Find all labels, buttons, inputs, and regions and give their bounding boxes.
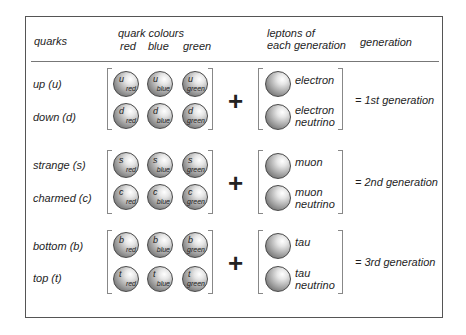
lepton-name: electron: [295, 104, 334, 116]
header-colour-green: green: [183, 40, 211, 52]
lepton-name: muon: [295, 186, 323, 198]
quark-ball-green: sgreen: [182, 152, 208, 178]
left-bracket: [107, 230, 112, 294]
quark-ball-green: dgreen: [182, 103, 208, 129]
quark-ball-blue: cblue: [147, 184, 173, 210]
plus-icon: +: [228, 250, 243, 276]
generation-result: = 2nd generation: [355, 176, 438, 188]
left-bracket: [258, 230, 263, 294]
lepton-ball: [265, 153, 291, 179]
quark-ball-blue: sblue: [147, 152, 173, 178]
quark-ball-red: cred: [113, 184, 139, 210]
lepton-name-line2: neutrino: [295, 116, 335, 128]
header-quark-colours: quark colours: [118, 27, 184, 39]
header-divider: [31, 61, 439, 62]
quark-ball-red: bred: [113, 232, 139, 258]
lepton-name-line2: neutrino: [295, 198, 335, 210]
quark-name: bottom (b): [33, 240, 83, 252]
quark-ball-blue: bblue: [147, 232, 173, 258]
lepton-ball: [265, 71, 291, 97]
quark-ball-red: tred: [113, 266, 139, 292]
generation-result: = 1st generation: [355, 94, 434, 106]
generation-result: = 3rd generation: [355, 256, 435, 268]
quark-ball-red: ured: [113, 71, 139, 97]
header-colour-blue: blue: [148, 40, 169, 52]
lepton-name: electron: [295, 74, 334, 86]
lepton-ball: [265, 233, 291, 259]
quark-ball-blue: ublue: [147, 71, 173, 97]
right-bracket: [208, 68, 213, 130]
quark-name: top (t): [33, 272, 62, 284]
quark-ball-red: sred: [113, 152, 139, 178]
right-bracket: [338, 68, 343, 130]
left-bracket: [258, 68, 263, 130]
header-generation: generation: [360, 36, 412, 48]
header-leptons-line1: leptons of: [267, 27, 315, 39]
quark-ball-red: dred: [113, 103, 139, 129]
lepton-name: tau: [295, 267, 310, 279]
quark-ball-green: tgreen: [182, 266, 208, 292]
lepton-name: tau: [295, 236, 310, 248]
left-bracket: [107, 68, 112, 130]
left-bracket: [258, 150, 263, 214]
lepton-name: muon: [295, 156, 323, 168]
lepton-ball: [265, 104, 291, 130]
quark-name: down (d): [33, 111, 76, 123]
quark-ball-green: cgreen: [182, 184, 208, 210]
quark-ball-green: ugreen: [182, 71, 208, 97]
left-bracket: [107, 150, 112, 214]
quark-name: up (u): [33, 78, 62, 90]
right-bracket: [338, 150, 343, 214]
right-bracket: [208, 230, 213, 294]
quark-name: strange (s): [33, 159, 86, 171]
right-bracket: [338, 230, 343, 294]
quark-name: charmed (c): [33, 192, 92, 204]
lepton-name-line2: neutrino: [295, 279, 335, 291]
plus-icon: +: [228, 170, 243, 196]
plus-icon: +: [228, 88, 243, 114]
header-quarks: quarks: [34, 35, 67, 47]
quark-ball-green: bgreen: [182, 232, 208, 258]
header-leptons-line2: each generation: [267, 39, 346, 51]
lepton-ball: [265, 266, 291, 292]
right-bracket: [208, 150, 213, 214]
lepton-ball: [265, 185, 291, 211]
header-colour-red: red: [120, 40, 136, 52]
quark-ball-blue: tblue: [147, 266, 173, 292]
quark-ball-blue: dblue: [147, 103, 173, 129]
